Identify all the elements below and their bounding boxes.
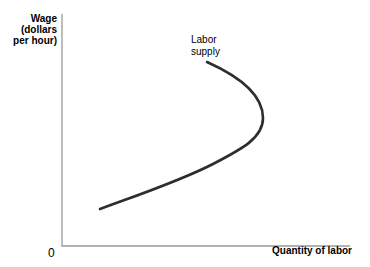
y-axis-label-line-3: per hour) xyxy=(13,35,57,46)
y-axis-label-line-1: Wage xyxy=(13,13,57,24)
curve-label-line-2: supply xyxy=(191,46,220,58)
x-axis-label: Quantity of labor xyxy=(272,245,352,256)
origin-label: 0 xyxy=(48,246,55,260)
labor-supply-curve xyxy=(100,62,263,209)
curve-label-line-1: Labor xyxy=(191,34,220,46)
labor-supply-figure: Wage (dollars per hour) Labor supply Qua… xyxy=(0,0,370,267)
y-axis-label-line-2: (dollars xyxy=(13,24,57,35)
y-axis-label: Wage (dollars per hour) xyxy=(13,13,57,46)
curve-label: Labor supply xyxy=(191,34,220,58)
